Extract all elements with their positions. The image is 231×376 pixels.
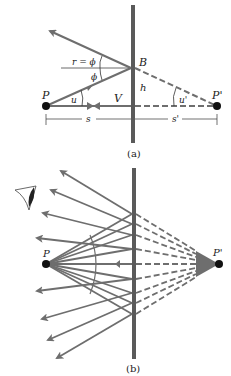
label-r-eq-phi: r = ϕ [72, 57, 96, 67]
label-V: V [114, 92, 123, 105]
label-u: u [71, 95, 77, 105]
label-phi: ϕ [91, 72, 97, 82]
image-point-P-prime [215, 260, 223, 268]
eye-icon [15, 186, 36, 210]
caption-a: (a) [127, 148, 141, 159]
label-P-prime: P' [212, 247, 222, 258]
panel-a: P P' B V h u u' r = ϕ ϕ s s' (a) [41, 5, 222, 159]
plane-mirror [132, 168, 136, 359]
virtual-rays [136, 214, 196, 314]
ray-arrow-right-icon [87, 102, 94, 110]
label-P: P [41, 89, 50, 102]
label-s-prime: s' [172, 114, 179, 124]
label-P-prime: P' [211, 89, 222, 102]
label-P: P [42, 248, 50, 259]
virtual-ray-B [135, 68, 217, 106]
angle-phi-arc [100, 68, 102, 80]
caption-b: (b) [126, 363, 140, 374]
object-point-P [42, 260, 50, 268]
angle-u-prime-arc [173, 88, 176, 106]
image-point-P-prime [213, 102, 221, 110]
plane-mirror [131, 5, 135, 143]
ray-arrow-left-icon [93, 102, 100, 110]
angle-r-arc [100, 56, 102, 68]
ray-arrow-left-icon [115, 260, 120, 268]
angle-u-arc [81, 90, 83, 106]
object-point-P [42, 102, 50, 110]
mirror-reflection-diagram: P P' B V h u u' r = ϕ ϕ s s' (a) [0, 0, 231, 376]
label-h: h [140, 82, 146, 93]
panel-b: P P' (b) [15, 168, 223, 374]
label-u-prime: u' [179, 95, 187, 105]
label-B: B [138, 56, 147, 69]
label-s: s [86, 114, 91, 124]
